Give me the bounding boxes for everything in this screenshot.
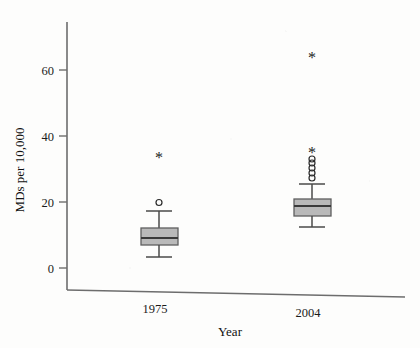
y-tick-label-60: 60 xyxy=(42,64,55,78)
y-axis-title: MDs per 10,000 xyxy=(12,128,27,213)
chart-page: 60 40 20 0 MDs per 10,000 1975 2004 Year… xyxy=(0,0,420,348)
outlier-circle-1975 xyxy=(156,200,162,206)
y-axis: 60 40 20 0 MDs per 10,000 xyxy=(12,22,67,290)
x-tick-label-2004: 2004 xyxy=(296,306,322,320)
outlier-star-2004-high: * xyxy=(308,49,316,66)
boxplot-group-1975[interactable]: * xyxy=(141,149,178,257)
y-tick-label-0: 0 xyxy=(48,262,54,276)
x-axis: 1975 2004 Year xyxy=(67,290,405,339)
boxplot-figure: 60 40 20 0 MDs per 10,000 1975 2004 Year… xyxy=(0,0,420,348)
x-axis-line xyxy=(67,290,405,297)
outlier-star-2004-low: * xyxy=(308,144,316,161)
y-tick-label-40: 40 xyxy=(42,130,55,144)
outlier-star-1975: * xyxy=(155,149,163,166)
x-tick-label-1975: 1975 xyxy=(143,302,168,316)
box-2004[interactable] xyxy=(294,199,331,216)
box-1975[interactable] xyxy=(141,228,178,245)
y-tick-label-20: 20 xyxy=(42,196,55,210)
boxplot-group-2004[interactable]: * * xyxy=(294,49,331,227)
x-axis-title: Year xyxy=(218,324,243,339)
